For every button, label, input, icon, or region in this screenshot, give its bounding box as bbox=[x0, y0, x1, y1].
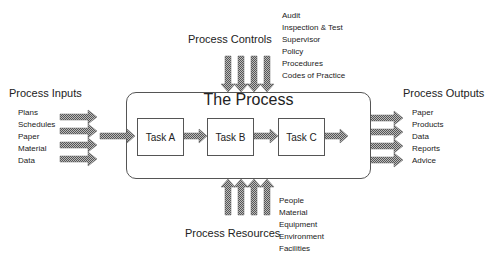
resource-arrows bbox=[221, 179, 274, 215]
output-item: Paper bbox=[412, 107, 444, 119]
inputs-list: Plans Schedules Paper Material Data bbox=[18, 107, 55, 167]
input-arrows bbox=[60, 110, 97, 166]
control-item: Supervisor bbox=[282, 34, 345, 46]
output-item: Advice bbox=[412, 155, 444, 167]
input-item: Material bbox=[18, 143, 55, 155]
process-box: The Process Task A Task B Task C bbox=[126, 92, 371, 179]
input-item: Data bbox=[18, 155, 55, 167]
resources-list: People Material Equipment Environment Fa… bbox=[279, 195, 324, 255]
input-item: Paper bbox=[18, 131, 55, 143]
resource-item: Equipment bbox=[279, 219, 324, 231]
input-item: Plans bbox=[18, 107, 55, 119]
outputs-title: Process Outputs bbox=[403, 87, 484, 99]
control-item: Procedures bbox=[282, 58, 345, 70]
control-item: Inspection & Test bbox=[282, 22, 345, 34]
resources-title: Process Resources bbox=[185, 227, 280, 239]
control-item: Codes of Practice bbox=[282, 70, 345, 82]
controls-title: Process Controls bbox=[188, 33, 272, 45]
output-item: Reports bbox=[412, 143, 444, 155]
task-arrows bbox=[127, 93, 370, 178]
control-item: Policy bbox=[282, 46, 345, 58]
control-arrows bbox=[221, 56, 274, 92]
input-item: Schedules bbox=[18, 119, 55, 131]
output-item: Products bbox=[412, 119, 444, 131]
inputs-title: Process Inputs bbox=[9, 87, 82, 99]
resource-item: Material bbox=[279, 207, 324, 219]
resource-item: People bbox=[279, 195, 324, 207]
output-item: Data bbox=[412, 131, 444, 143]
outputs-list: Paper Products Data Reports Advice bbox=[412, 107, 444, 167]
resource-item: Environment bbox=[279, 231, 324, 243]
controls-list: Audit Inspection & Test Supervisor Polic… bbox=[282, 10, 345, 82]
resource-item: Facilities bbox=[279, 243, 324, 255]
control-item: Audit bbox=[282, 10, 345, 22]
